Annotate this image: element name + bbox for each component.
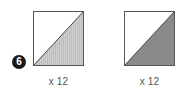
half-square-triangle-dark-block bbox=[124, 11, 175, 66]
quantity-label: x 12 bbox=[124, 76, 175, 87]
dark-triangle-square-icon bbox=[124, 11, 175, 66]
step-number-badge: 6 bbox=[12, 55, 26, 69]
quantity-label: x 12 bbox=[33, 76, 84, 87]
light-triangle-square-icon bbox=[33, 11, 84, 66]
half-square-triangle-light-block bbox=[33, 11, 84, 66]
